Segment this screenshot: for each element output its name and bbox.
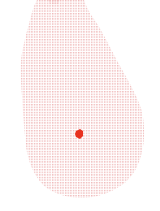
north-peninsula xyxy=(48,0,60,4)
dotted-map xyxy=(0,0,160,211)
country-shape-sri-lanka xyxy=(21,0,145,198)
map-svg xyxy=(0,0,160,211)
